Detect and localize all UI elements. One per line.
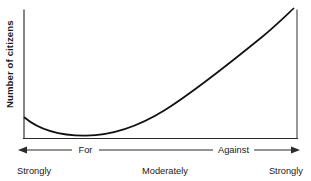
tick-label-strongly-against: Strongly — [269, 166, 303, 176]
plot-axes — [24, 10, 298, 139]
tick-label-moderately: Moderately — [142, 166, 188, 176]
opinion-scale-axis — [18, 146, 300, 153]
y-axis-label: Number of citizens — [4, 20, 15, 108]
opinion-distribution-chart: Number of citizens For Against Strongly … — [0, 0, 311, 181]
chart-canvas: Number of citizens For Against Strongly … — [0, 0, 311, 181]
tick-label-strongly-for: Strongly — [17, 166, 51, 176]
citizens-distribution-curve — [25, 9, 294, 136]
scale-arrow-right-icon — [291, 146, 300, 153]
scale-label-against: Against — [218, 145, 249, 155]
scale-arrow-left-icon — [18, 146, 27, 153]
scale-label-for: For — [79, 145, 93, 155]
curve-group — [25, 9, 294, 136]
